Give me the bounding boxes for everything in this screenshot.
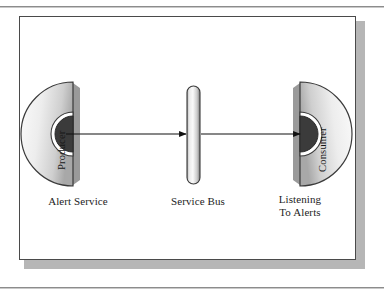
service-bus-bar: [187, 86, 200, 184]
consumer-inner-label: Consumer: [317, 127, 328, 172]
figure-page: Producer Consumer Alert Service Service …: [0, 0, 384, 295]
node-service-bus[interactable]: [187, 86, 200, 184]
caption-listening-line2: To Alerts: [248, 206, 352, 219]
caption-alert-service: Alert Service: [23, 195, 133, 208]
caption-service-bus: Service Bus: [148, 195, 248, 208]
caption-listening-line1: Listening: [248, 193, 352, 206]
producer-inner-label: Producer: [56, 130, 67, 170]
caption-listening-to-alerts: Listening To Alerts: [248, 193, 352, 219]
